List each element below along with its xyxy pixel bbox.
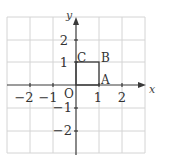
origin-label: O	[64, 87, 74, 101]
square-OABC	[76, 62, 99, 85]
x-tick-label: 2	[118, 90, 126, 105]
y-tick-label: −1	[53, 100, 72, 115]
coordinate-plane: x y −2 −1 1 2 2 1 −1 −2 O A B C	[0, 0, 172, 165]
y-tick-label: −2	[53, 123, 72, 138]
x-tick-label: −2	[14, 90, 33, 105]
x-axis-label: x	[149, 83, 156, 96]
point-label-A: A	[100, 73, 110, 87]
y-tick-label: 1	[60, 55, 68, 70]
y-tick-label: 2	[60, 33, 68, 48]
point-label-B: B	[101, 51, 110, 65]
y-axis-label: y	[65, 9, 73, 22]
x-tick-label: 1	[94, 90, 102, 105]
y-axis	[73, 17, 79, 155]
y-axis-arrow-icon	[73, 17, 79, 25]
point-label-C: C	[77, 51, 86, 65]
